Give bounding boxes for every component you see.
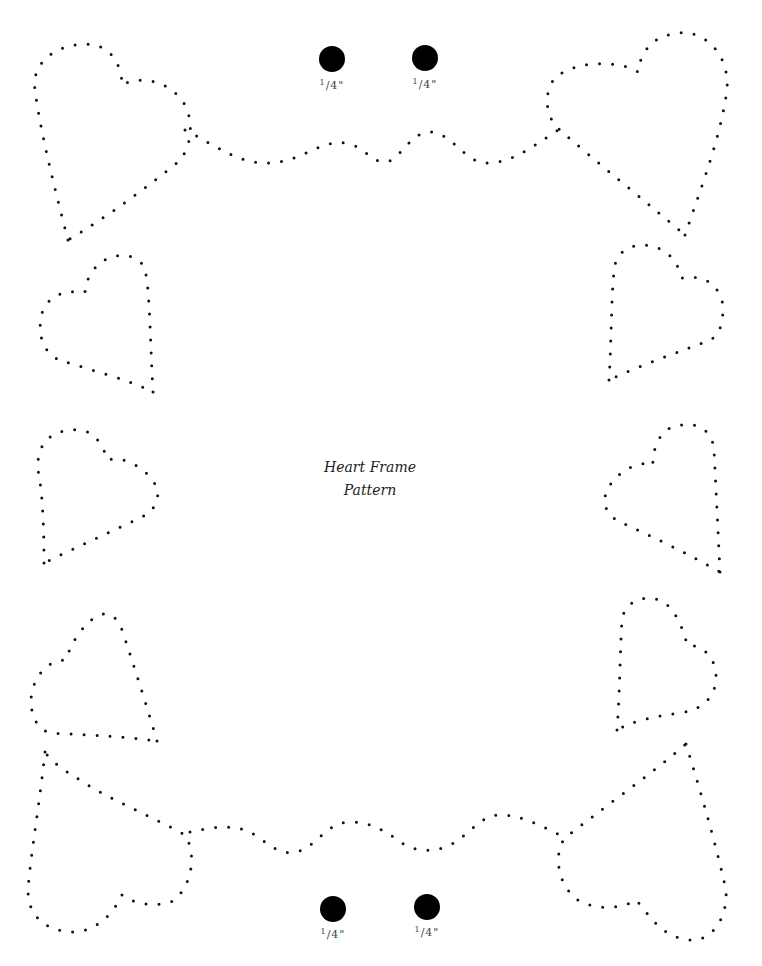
heart-bottom-right-outline (558, 744, 726, 940)
heart-right-4-outline (617, 598, 716, 730)
hole-size-label: 1/4" (313, 927, 353, 941)
title-line-2: Pattern (280, 479, 460, 502)
heart-left-2-outline (40, 255, 153, 392)
wave-top-outline (185, 130, 558, 163)
punch-hole-icon (412, 45, 438, 71)
heart-left-3-outline (38, 430, 158, 563)
hole-size-label: 1/4" (405, 77, 445, 91)
heart-left-4-outline (31, 614, 157, 741)
heart-right-3-outline (605, 424, 720, 572)
punch-hole-icon (320, 896, 346, 922)
punch-hole-icon (414, 894, 440, 920)
hole-size-denominator: /4" (326, 79, 345, 92)
heart-bottom-left-outline (28, 752, 192, 932)
title-line-1: Heart Frame (280, 456, 460, 479)
pattern-title: Heart Frame Pattern (280, 456, 460, 502)
heart-top-left-outline (35, 44, 191, 240)
wave-bottom-outline (190, 815, 560, 853)
hole-size-label: 1/4" (407, 925, 447, 939)
punch-hole-icon (319, 46, 345, 72)
pattern-page: 1/4"1/4"1/4"1/4" Heart Frame Pattern (0, 0, 762, 966)
heart-top-right-outline (547, 33, 727, 235)
hole-size-denominator: /4" (419, 78, 438, 91)
heart-right-2-outline (609, 245, 723, 380)
hole-size-denominator: /4" (421, 926, 440, 939)
hole-size-label: 1/4" (312, 78, 352, 92)
hole-size-denominator: /4" (327, 928, 346, 941)
